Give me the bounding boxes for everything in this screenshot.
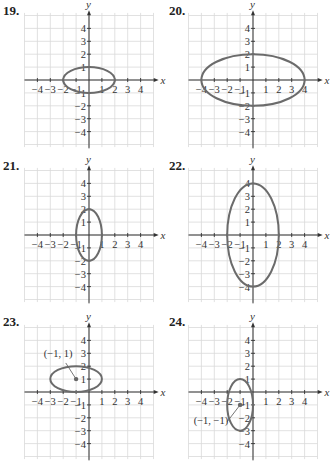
y-tick-label: −3 — [75, 114, 86, 125]
y-tick-label: −3 — [239, 114, 250, 125]
y-arrow-icon — [87, 322, 91, 327]
x-tick-label: 1 — [263, 396, 268, 407]
y-tick-label: −2 — [239, 256, 250, 267]
y-tick-label: −3 — [75, 426, 86, 437]
center-annotation: (−1, −1) — [194, 415, 229, 427]
y-tick-label: 1 — [245, 62, 250, 73]
y-arrow-icon — [87, 10, 91, 15]
x-arrow-icon — [154, 78, 159, 82]
y-tick-label: 3 — [245, 348, 250, 359]
y-axis-label: y — [85, 153, 91, 165]
y-tick-label: 3 — [245, 36, 250, 47]
y-arrow-icon — [251, 165, 255, 170]
x-axis-label: x — [160, 74, 166, 86]
y-tick-label: 4 — [81, 178, 87, 189]
x-tick-label: 3 — [125, 239, 130, 250]
y-tick-label: 4 — [81, 335, 87, 346]
x-tick-label: 4 — [302, 396, 308, 407]
x-tick-label: 2 — [276, 84, 281, 95]
x-axis-label: x — [160, 386, 166, 398]
y-axis-label: y — [249, 0, 255, 10]
x-tick-label: −3 — [209, 239, 220, 250]
y-axis-label: y — [85, 0, 91, 10]
y-tick-label: 1 — [245, 217, 250, 228]
y-tick-label: −2 — [75, 101, 86, 112]
x-tick-label: 3 — [289, 239, 294, 250]
x-tick-label: −4 — [32, 239, 44, 250]
graph-24: xy−4−3−2−112344321−1−2−3−4(−1, −1) — [189, 310, 330, 460]
y-tick-label: −2 — [75, 256, 86, 267]
x-tick-label: 2 — [276, 396, 281, 407]
x-tick-label: 2 — [112, 396, 117, 407]
x-tick-label: 2 — [112, 239, 117, 250]
x-arrow-icon — [154, 390, 159, 394]
x-tick-label: 4 — [138, 396, 144, 407]
x-axis-label: x — [324, 229, 330, 241]
x-tick-label: −2 — [58, 239, 69, 250]
y-arrow-icon — [251, 322, 255, 327]
x-tick-label: −4 — [196, 239, 208, 250]
graph-22: xy−4−3−2−112344321−1−2−3−4 — [189, 153, 330, 303]
x-tick-label: 4 — [138, 239, 144, 250]
center-annotation: (−1, 1) — [44, 348, 73, 360]
y-arrow-icon — [87, 165, 91, 170]
y-tick-label: 3 — [81, 36, 86, 47]
x-tick-label: 1 — [99, 396, 104, 407]
y-tick-label: 1 — [81, 217, 86, 228]
x-tick-label: 1 — [263, 239, 268, 250]
y-tick-label: −4 — [239, 439, 251, 450]
y-tick-label: 3 — [245, 191, 250, 202]
y-tick-label: −3 — [239, 269, 250, 280]
y-tick-label: −3 — [75, 269, 86, 280]
x-tick-label: −3 — [45, 396, 56, 407]
x-axis-label: x — [324, 386, 330, 398]
y-tick-label: −1 — [75, 400, 86, 411]
y-axis-label: y — [249, 310, 255, 322]
x-tick-label: 3 — [289, 84, 294, 95]
y-tick-label: 2 — [245, 204, 250, 215]
y-tick-label: −1 — [239, 243, 250, 254]
x-tick-label: 1 — [99, 84, 104, 95]
y-tick-label: 3 — [81, 191, 86, 202]
y-tick-label: −4 — [75, 282, 87, 293]
graph-20: xy−4−3−2−112344321−1−2−3−4 — [189, 0, 330, 148]
x-tick-label: 3 — [125, 84, 130, 95]
x-tick-label: −2 — [58, 396, 69, 407]
x-tick-label: 4 — [302, 239, 308, 250]
graph-21: xy−4−3−2−112344321−1−2−3−4 — [25, 153, 166, 303]
y-arrow-icon — [251, 10, 255, 15]
graph-23: xy−4−3−2−112344321−1−2−3−4(−1, 1) — [25, 310, 166, 460]
y-tick-label: 4 — [245, 23, 251, 34]
y-tick-label: 3 — [81, 348, 86, 359]
x-tick-label: −4 — [32, 396, 44, 407]
x-tick-label: 1 — [263, 84, 268, 95]
x-axis-label: x — [160, 229, 166, 241]
y-tick-label: 4 — [245, 335, 251, 346]
y-tick-label: −4 — [239, 127, 251, 138]
y-tick-label: −2 — [75, 413, 86, 424]
graph-19: xy−4−3−2−112344321−1−2−3−4 — [25, 0, 166, 148]
x-arrow-icon — [318, 390, 323, 394]
y-tick-label: −4 — [75, 127, 87, 138]
x-tick-label: −4 — [196, 396, 208, 407]
y-tick-label: −2 — [239, 413, 250, 424]
y-tick-label: 2 — [81, 49, 86, 60]
y-axis-label: y — [85, 310, 91, 322]
x-tick-label: −4 — [32, 84, 44, 95]
x-arrow-icon — [318, 233, 323, 237]
x-tick-label: −3 — [209, 84, 220, 95]
x-tick-label: −3 — [45, 84, 56, 95]
y-tick-label: −4 — [75, 439, 87, 450]
y-tick-label: 4 — [81, 23, 87, 34]
x-tick-label: 3 — [125, 396, 130, 407]
x-axis-label: x — [324, 74, 330, 86]
x-arrow-icon — [154, 233, 159, 237]
y-axis-label: y — [249, 153, 255, 165]
x-tick-label: −3 — [45, 239, 56, 250]
x-tick-label: −3 — [209, 396, 220, 407]
x-arrow-icon — [318, 78, 323, 82]
x-tick-label: 4 — [138, 84, 144, 95]
y-tick-label: 1 — [81, 374, 86, 385]
y-tick-label: −1 — [239, 88, 250, 99]
ellipse-graphs: xy−4−3−2−112344321−1−2−3−4xy−4−3−2−11234… — [0, 0, 333, 462]
